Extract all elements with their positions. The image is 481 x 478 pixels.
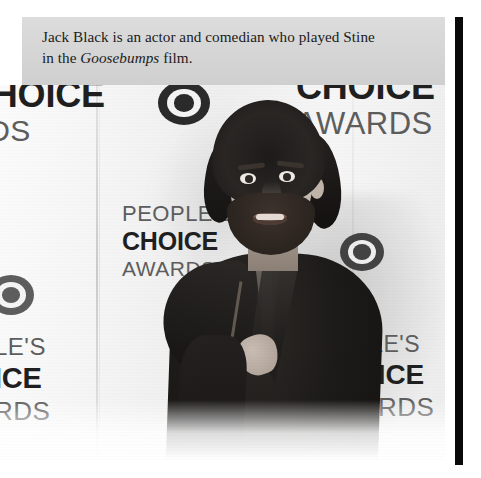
scanned-page: Jack Black is an actor and comedian who … [0, 0, 481, 478]
caption-line-1: Jack Black is an actor and comedian who … [42, 28, 375, 45]
subject-iris [245, 175, 253, 183]
figure-photograph: CHOICE RDS CHOICE AWARDS PEOPLE'S CHOICE… [0, 85, 445, 460]
subject-teeth [256, 214, 284, 220]
figure-caption-text: Jack Black is an actor and comedian who … [42, 27, 437, 68]
caption-title-goosebumps: Goosebumps [80, 49, 159, 66]
caption-line-2-prefix: in the [42, 49, 80, 66]
figure-caption-band: Jack Black is an actor and comedian who … [22, 17, 445, 85]
caption-line-2-suffix: film. [159, 49, 192, 66]
black-page-edge-bar [455, 17, 463, 465]
photo-bottom-fade [0, 400, 445, 460]
subject-iris [283, 173, 291, 181]
